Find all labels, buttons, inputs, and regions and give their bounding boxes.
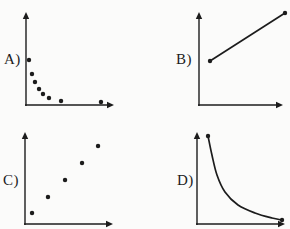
- graph-c-x-arrow-icon: [106, 221, 113, 227]
- graph-d-endpoint: [280, 218, 284, 222]
- graph-a-x-arrow-icon: [107, 102, 114, 108]
- four-graphs-figure: A) B) C) D): [0, 0, 290, 229]
- graphs-canvas: [0, 0, 290, 229]
- graph-c-data-point: [30, 211, 34, 215]
- graph-d-y-arrow-icon: [194, 132, 200, 139]
- graph-b-endpoint: [283, 11, 287, 15]
- graph-a-data-point: [33, 80, 37, 84]
- graph-b-label: B): [176, 51, 192, 68]
- graph-c-data-point: [96, 144, 100, 148]
- graph-c-label: C): [3, 172, 19, 189]
- graph-a-data-point: [37, 87, 41, 91]
- graph-b-trend-line: [210, 13, 285, 61]
- graph-a-data-point: [99, 100, 103, 104]
- graph-a-data-point: [47, 96, 51, 100]
- graph-a-data-point: [59, 99, 63, 103]
- graph-c-y-arrow-icon: [22, 132, 28, 139]
- graph-b-x-arrow-icon: [276, 102, 283, 108]
- graph-a-y-arrow-icon: [23, 12, 29, 19]
- graph-a-data-point: [41, 92, 45, 96]
- graph-a-data-point: [27, 58, 31, 62]
- graph-b-y-arrow-icon: [196, 12, 202, 19]
- graph-d-curve: [208, 136, 282, 220]
- graph-b-endpoint: [208, 59, 212, 63]
- graph-c-data-point: [80, 161, 84, 165]
- graph-a-label: A): [4, 51, 21, 68]
- graph-c-data-point: [63, 178, 67, 182]
- graph-c-data-point: [46, 195, 50, 199]
- graph-a-data-point: [30, 72, 34, 76]
- graph-d-endpoint: [206, 134, 210, 138]
- graph-d-label: D): [177, 172, 194, 189]
